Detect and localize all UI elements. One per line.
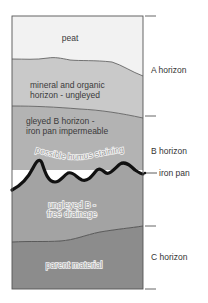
a-horizon-label: A horizon bbox=[151, 65, 187, 75]
iron-pan-label: iron pan bbox=[159, 168, 190, 178]
arrow-head-icon bbox=[144, 172, 146, 174]
gleyed-label-2: iron pan impermeable bbox=[26, 126, 108, 136]
peat-label: peat bbox=[62, 33, 79, 43]
ungleyed-label-2: free drainage bbox=[47, 209, 97, 219]
parent-material-label: parent material bbox=[46, 260, 103, 270]
soil-profile-diagram: peat mineral and organic horizon - ungle… bbox=[0, 0, 208, 303]
mineral-label-2: horizon - ungleyed bbox=[30, 90, 100, 100]
gleyed-label-1: gleyed B horizon - bbox=[26, 116, 95, 126]
mineral-label-1: mineral and organic bbox=[30, 80, 105, 90]
b-horizon-label: B horizon bbox=[151, 146, 187, 156]
c-horizon-label: C horizon bbox=[151, 252, 188, 262]
